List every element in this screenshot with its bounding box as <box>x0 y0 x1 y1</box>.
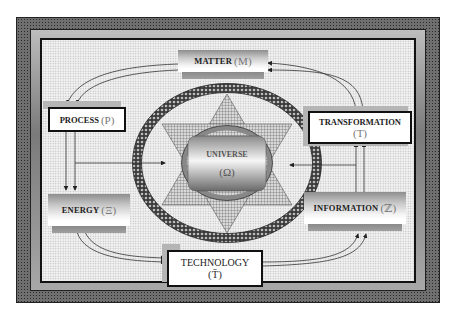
node-transformation-label: TRANSFORMATION <box>319 117 401 127</box>
node-process-symbol: (P) <box>101 114 114 126</box>
node-matter-shelf <box>182 72 264 79</box>
node-universe-label: UNIVERSE <box>206 150 247 159</box>
node-information-symbol: (ℤ) <box>380 202 396 215</box>
node-information-label: INFORMATION <box>314 203 379 213</box>
node-energy-shelf <box>52 226 126 233</box>
node-process-label: PROCESS <box>60 115 99 125</box>
node-matter[interactable]: MATTER (M) <box>178 50 268 72</box>
node-technology-symbol: (T̄) <box>208 268 222 280</box>
node-energy[interactable]: ENERGY (Ξ) <box>48 194 130 226</box>
node-matter-label: MATTER <box>194 56 232 66</box>
node-technology[interactable]: TECHNOLOGY (T̄) <box>167 250 263 287</box>
node-universe-symbol: (Ω) <box>219 166 235 178</box>
node-technology-label: TECHNOLOGY <box>181 257 249 268</box>
node-transformation[interactable]: TRANSFORMATION (T) <box>308 111 412 144</box>
node-energy-label: ENERGY <box>62 205 100 215</box>
node-matter-symbol: (M) <box>234 55 252 67</box>
node-information-shelf <box>308 224 402 231</box>
node-energy-symbol: (Ξ) <box>101 204 116 216</box>
node-universe[interactable]: UNIVERSE (Ω) <box>188 136 266 191</box>
node-information[interactable]: INFORMATION (ℤ) <box>304 192 406 224</box>
node-process[interactable]: PROCESS (P) <box>48 107 126 132</box>
node-transformation-symbol: (T) <box>353 127 367 139</box>
